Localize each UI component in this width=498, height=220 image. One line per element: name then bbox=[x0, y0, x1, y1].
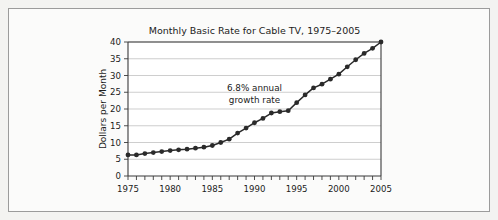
x-tick-label: 1975 bbox=[117, 184, 139, 194]
data-point bbox=[176, 147, 181, 152]
y-tick-label: 35 bbox=[110, 54, 121, 64]
data-point bbox=[235, 131, 240, 136]
data-point bbox=[286, 108, 291, 113]
growth-rate-annotation-line-2: growth rate bbox=[229, 95, 280, 105]
data-point bbox=[168, 148, 173, 153]
x-axis-ticks: 1975198019851990199520002005 bbox=[117, 176, 392, 194]
data-point bbox=[353, 57, 358, 62]
y-tick-label: 30 bbox=[110, 71, 121, 81]
x-tick-label: 2005 bbox=[370, 184, 392, 194]
data-point bbox=[370, 46, 375, 51]
data-point bbox=[294, 100, 299, 105]
data-point bbox=[193, 146, 198, 151]
data-point bbox=[320, 82, 325, 87]
data-point bbox=[379, 40, 384, 45]
data-point bbox=[185, 147, 190, 152]
y-tick-label: 10 bbox=[110, 138, 121, 148]
data-point bbox=[336, 72, 341, 77]
data-point bbox=[227, 137, 232, 142]
cable-tv-rate-line-chart: Monthly Basic Rate for Cable TV, 1975–20… bbox=[0, 0, 498, 220]
data-point bbox=[244, 126, 249, 131]
data-point bbox=[277, 109, 282, 114]
y-tick-label: 15 bbox=[110, 121, 121, 131]
data-point bbox=[252, 120, 257, 125]
data-point bbox=[151, 150, 156, 155]
data-point bbox=[261, 116, 266, 121]
y-tick-label: 40 bbox=[110, 37, 121, 47]
y-tick-label: 0 bbox=[116, 171, 121, 181]
y-axis-title: Dollars per Month bbox=[98, 69, 108, 149]
x-tick-label: 2000 bbox=[328, 184, 350, 194]
data-point bbox=[126, 153, 131, 158]
data-point bbox=[362, 51, 367, 56]
y-tick-label: 5 bbox=[116, 154, 121, 164]
data-point bbox=[134, 153, 139, 158]
x-tick-label: 1980 bbox=[159, 184, 181, 194]
x-tick-label: 1990 bbox=[244, 184, 266, 194]
figure-root: Monthly Basic Rate for Cable TV, 1975–20… bbox=[0, 0, 498, 220]
data-point bbox=[142, 151, 147, 156]
data-point bbox=[218, 140, 223, 145]
x-tick-label: 1985 bbox=[201, 184, 223, 194]
x-tick-label: 1995 bbox=[286, 184, 308, 194]
growth-rate-annotation-line-1: 6.8% annual bbox=[227, 83, 282, 93]
y-axis-ticks: 0510152025303540 bbox=[110, 37, 128, 181]
data-point bbox=[210, 143, 215, 148]
data-point bbox=[303, 93, 308, 98]
data-point bbox=[345, 64, 350, 69]
data-point bbox=[328, 77, 333, 82]
y-tick-label: 20 bbox=[110, 104, 121, 114]
data-point bbox=[202, 145, 207, 150]
chart-title: Monthly Basic Rate for Cable TV, 1975–20… bbox=[149, 25, 361, 36]
y-tick-label: 25 bbox=[110, 87, 121, 97]
data-point bbox=[159, 149, 164, 154]
data-point bbox=[269, 111, 274, 116]
data-point bbox=[311, 86, 316, 91]
